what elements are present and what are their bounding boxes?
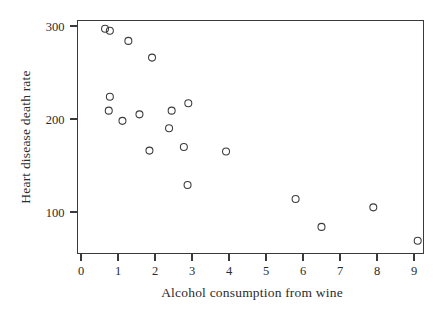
y-axis-tick-labels: 100200300 <box>46 20 65 220</box>
y-tick-label: 100 <box>46 206 65 220</box>
data-point-marker <box>318 223 325 230</box>
data-points <box>102 25 422 244</box>
data-point-marker <box>149 54 156 61</box>
x-tick-label: 7 <box>337 264 343 278</box>
x-tick-label: 5 <box>263 264 269 278</box>
data-point-marker <box>105 107 112 114</box>
x-axis-ticks <box>81 254 414 261</box>
data-point-marker <box>370 204 377 211</box>
data-point-marker <box>168 107 175 114</box>
data-point-marker <box>180 143 187 150</box>
data-point-marker <box>125 37 132 44</box>
x-tick-label: 2 <box>152 264 158 278</box>
x-tick-label: 6 <box>300 264 306 278</box>
data-point-marker <box>106 93 113 100</box>
y-axis-ticks <box>70 26 78 212</box>
data-point-marker <box>185 100 192 107</box>
data-point-marker <box>146 147 153 154</box>
x-tick-label: 3 <box>189 264 195 278</box>
x-axis-tick-labels: 0123456789 <box>78 264 417 278</box>
data-point-marker <box>166 125 173 132</box>
plot-canvas: 0123456789 100200300 Alcohol consumption… <box>0 0 444 315</box>
scatter-plot-figure: 0123456789 100200300 Alcohol consumption… <box>0 0 444 315</box>
x-tick-label: 4 <box>226 264 233 278</box>
data-point-marker <box>414 237 421 244</box>
plot-frame <box>78 21 424 254</box>
x-tick-label: 9 <box>411 264 417 278</box>
x-axis-title: Alcohol consumption from wine <box>161 285 343 300</box>
data-point-marker <box>136 111 143 118</box>
x-tick-label: 8 <box>374 264 380 278</box>
data-point-marker <box>223 148 230 155</box>
data-point-marker <box>184 182 191 189</box>
data-point-marker <box>119 117 126 124</box>
x-tick-label: 1 <box>115 264 121 278</box>
data-point-marker <box>292 195 299 202</box>
y-axis-title: Heart disease death rate <box>18 70 33 203</box>
y-tick-label: 200 <box>46 113 65 127</box>
y-tick-label: 300 <box>46 20 65 34</box>
axes-frame <box>78 21 424 254</box>
x-tick-label: 0 <box>78 264 84 278</box>
